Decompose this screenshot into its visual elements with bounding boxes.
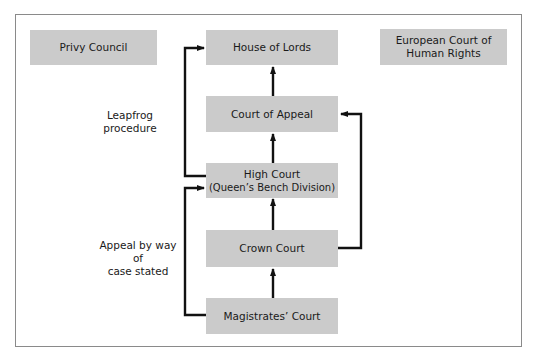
house-of-lords-box: House of Lords <box>206 30 338 65</box>
echr-box: European Court of Human Rights <box>380 29 507 65</box>
leapfrog-label: Leapfrog procedure <box>80 109 180 135</box>
case-stated-text-line2: case stated <box>93 265 183 278</box>
court-of-appeal-label: Court of Appeal <box>231 108 313 121</box>
privy-council-box: Privy Council <box>30 30 157 65</box>
echr-label-line2: Human Rights <box>406 47 480 60</box>
high-court-label-line2: (Queen’s Bench Division) <box>209 181 335 194</box>
high-court-box: High Court (Queen’s Bench Division) <box>206 163 338 198</box>
high-court-label-line1: High Court <box>244 168 300 181</box>
crown-court-label: Crown Court <box>239 242 304 255</box>
leapfrog-text: Leapfrog procedure <box>103 109 156 134</box>
arrow-crown-to-coa <box>338 114 361 248</box>
echr-label-line1: European Court of <box>396 34 492 47</box>
magistrates-court-box: Magistrates’ Court <box>206 298 338 334</box>
privy-council-label: Privy Council <box>60 41 128 54</box>
crown-court-box: Crown Court <box>206 230 338 267</box>
arrow-leapfrog <box>185 48 206 176</box>
magistrates-court-label: Magistrates’ Court <box>224 310 321 323</box>
case-stated-label: Appeal by way of case stated <box>93 239 183 278</box>
arrow-case-stated <box>185 188 206 315</box>
court-of-appeal-box: Court of Appeal <box>206 96 338 132</box>
case-stated-text-line1: Appeal by way of <box>93 239 183 265</box>
house-of-lords-label: House of Lords <box>233 41 311 54</box>
